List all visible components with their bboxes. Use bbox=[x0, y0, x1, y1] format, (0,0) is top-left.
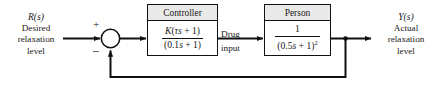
controller-block: Controller K(τs + 1) (0.1s + 1) bbox=[147, 4, 218, 56]
summing-junction-minus-sign: − bbox=[92, 47, 99, 56]
drug-input-line2: input bbox=[221, 41, 265, 55]
person-fraction: 1 (0.5s + 1)2 bbox=[273, 23, 321, 52]
controller-transfer-function: K(τs + 1) (0.1s + 1) bbox=[148, 21, 217, 55]
reference-input-line1: Desired bbox=[2, 23, 70, 35]
reference-input-symbol: R(s) bbox=[2, 11, 70, 23]
drug-input-line1: Drug bbox=[221, 27, 265, 41]
output-symbol: Y(s) bbox=[372, 11, 440, 23]
reference-input-line3: level bbox=[2, 46, 70, 58]
person-block-title: Person bbox=[265, 5, 330, 21]
reference-input-label: R(s) Desired relaxation level bbox=[2, 11, 70, 57]
person-block: Person 1 (0.5s + 1)2 bbox=[264, 4, 331, 56]
reference-input-line2: relaxation bbox=[2, 34, 70, 46]
output-label: Y(s) Actual relaxation level bbox=[372, 11, 440, 57]
controller-fraction: K(τs + 1) (0.1s + 1) bbox=[160, 25, 205, 51]
controller-block-title: Controller bbox=[148, 5, 217, 21]
controller-numerator: K(τs + 1) bbox=[162, 25, 203, 38]
person-denominator: (0.5s + 1)2 bbox=[275, 36, 319, 53]
person-numerator: 1 bbox=[275, 23, 319, 36]
output-line1: Actual bbox=[372, 23, 440, 35]
summing-junction-circle bbox=[101, 29, 119, 47]
drug-input-label: Drug input bbox=[221, 27, 265, 55]
summing-junction-plus-sign: + bbox=[93, 20, 99, 29]
person-transfer-function: 1 (0.5s + 1)2 bbox=[265, 21, 330, 55]
output-line3: level bbox=[372, 46, 440, 58]
controller-denominator: (0.1s + 1) bbox=[162, 38, 203, 52]
block-diagram: R(s) Desired relaxation level + − Contro… bbox=[0, 0, 442, 94]
output-line2: relaxation bbox=[372, 34, 440, 46]
